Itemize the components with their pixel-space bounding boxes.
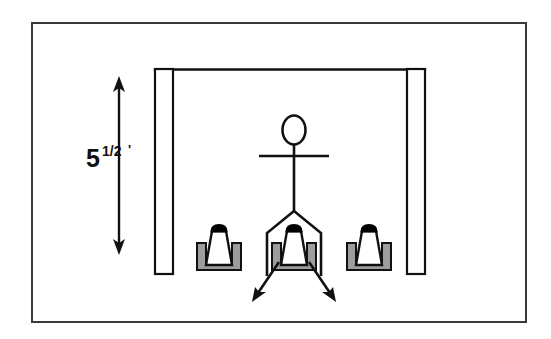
figure-root: 5 1/2 ' — [0, 0, 551, 339]
seat-right-back — [356, 231, 382, 265]
seat-center-back — [281, 231, 307, 265]
doorway-right-wall — [407, 69, 425, 274]
figure-border — [32, 23, 526, 322]
dimension-label-value: 5 — [86, 144, 100, 172]
seat-left-headrest — [212, 225, 227, 232]
seat-center-headrest — [287, 225, 302, 232]
seat-left-back — [206, 231, 232, 265]
dimension-label-prime: ' — [128, 142, 131, 157]
dimension-label-superscript: 1/2 — [102, 143, 122, 159]
doorway-left-wall — [155, 69, 173, 274]
seat-right-headrest — [362, 225, 377, 232]
doorway-clearance-diagram: 5 1/2 ' — [0, 0, 551, 339]
figure-head-icon — [283, 116, 306, 145]
